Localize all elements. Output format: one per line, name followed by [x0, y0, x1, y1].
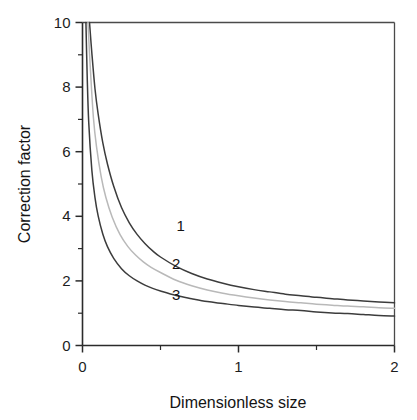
- x-tick-label: 0: [78, 358, 86, 375]
- curve-label-3: 3: [172, 286, 180, 303]
- chart-figure: 0246810012 123 Dimensionless size Correc…: [0, 0, 417, 420]
- y-tick-label: 8: [62, 78, 70, 95]
- curve-label-2: 2: [172, 255, 180, 272]
- correction-factor-chart: 0246810012 123 Dimensionless size Correc…: [0, 0, 417, 420]
- x-tick-label: 1: [234, 358, 242, 375]
- y-tick-label: 0: [62, 337, 70, 354]
- x-tick-label: 2: [390, 358, 398, 375]
- curve-label-1: 1: [177, 217, 185, 234]
- y-tick-label: 2: [62, 272, 70, 289]
- y-tick-label: 6: [62, 143, 70, 160]
- y-tick-label: 10: [54, 14, 71, 31]
- y-axis-title: Correction factor: [16, 124, 33, 243]
- y-tick-label: 4: [62, 207, 70, 224]
- x-axis-title: Dimensionless size: [170, 394, 307, 411]
